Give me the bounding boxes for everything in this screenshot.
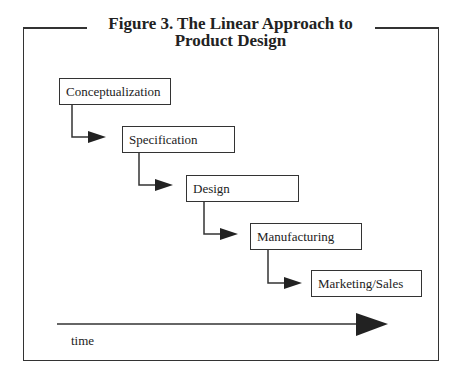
step-label: Design (193, 181, 230, 197)
step-manufacturing: Manufacturing (250, 223, 362, 250)
step-conceptualization: Conceptualization (59, 78, 171, 105)
step-label: Manufacturing (257, 229, 334, 245)
step-design: Design (186, 175, 299, 202)
step-marketing-sales: Marketing/Sales (311, 270, 422, 297)
step-label: Conceptualization (66, 84, 161, 100)
step-label: Marketing/Sales (318, 276, 403, 292)
step-label: Specification (129, 132, 198, 148)
time-axis-label: time (71, 333, 94, 349)
step-specification: Specification (122, 126, 235, 153)
